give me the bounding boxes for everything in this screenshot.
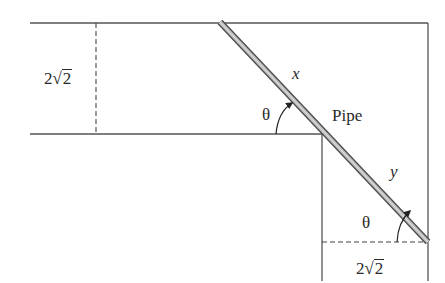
bottom-width-coefficient: 2	[356, 259, 365, 278]
angle-theta-lower-label: θ	[362, 214, 370, 231]
sqrt-symbol: √	[365, 260, 374, 277]
top-width-coefficient: 2	[44, 69, 53, 88]
corridor-pipe-diagram: 2√2 2√2 x y θ θ Pipe	[0, 0, 445, 283]
bottom-width-radicand: 2	[374, 259, 385, 277]
pipe	[220, 22, 428, 242]
pipe-label: Pipe	[332, 107, 362, 124]
top-width-label: 2√2	[44, 69, 72, 87]
top-width-radicand: 2	[62, 69, 73, 87]
sqrt-symbol: √	[53, 70, 62, 87]
upper-angle-arc	[276, 103, 292, 134]
bottom-width-label: 2√2	[356, 259, 384, 277]
segment-y-label: y	[390, 163, 398, 180]
diagram-canvas	[0, 0, 445, 283]
segment-x-label: x	[292, 65, 300, 82]
angle-theta-upper-label: θ	[262, 106, 270, 123]
